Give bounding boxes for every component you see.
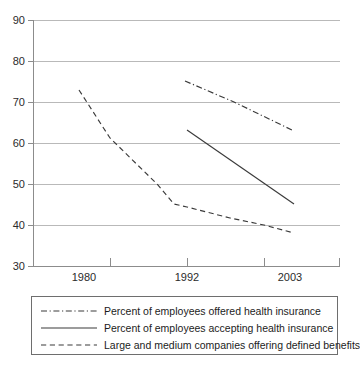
y-axis-labels: 90 80 70 60 50 40 30 [13,14,25,272]
series-line-offered-insurance [185,81,294,131]
x-axis-labels: 1980 1992 2003 [72,271,302,283]
x-label-1992: 1992 [175,271,199,283]
gridlines [33,21,340,226]
legend-item-accepting-insurance: Percent of employees accepting health in… [40,320,337,336]
y-label-50: 50 [13,178,25,190]
y-label-70: 70 [13,96,25,108]
series-line-defined-benefits [79,90,294,233]
legend-list: Percent of employees offered health insu… [32,297,337,354]
chart-legend: Percent of employees offered health insu… [31,296,338,355]
legend-item-offered-insurance: Percent of employees offered health insu… [40,303,337,319]
plot-area: 90 80 70 60 50 40 30 1980 1992 2003 [0,0,352,290]
series-line-accepting-insurance [187,130,294,204]
y-tick-marks [28,21,33,267]
dashed-line-icon [40,339,98,351]
y-label-90: 90 [13,14,25,26]
x-label-2003: 2003 [278,271,302,283]
y-label-60: 60 [13,137,25,149]
y-label-30: 30 [13,260,25,272]
y-label-80: 80 [13,55,25,67]
legend-label-defined-benefits: Large and medium companies offering defi… [104,339,360,351]
y-label-40: 40 [13,219,25,231]
dash-dot-line-icon [40,305,98,317]
x-tick-marks [111,258,340,266]
legend-label-accepting-insurance: Percent of employees accepting health in… [104,322,333,334]
legend-label-offered-insurance: Percent of employees offered health insu… [104,305,321,317]
legend-item-defined-benefits: Large and medium companies offering defi… [40,337,337,353]
x-label-1980: 1980 [72,271,96,283]
solid-line-icon [40,322,98,334]
